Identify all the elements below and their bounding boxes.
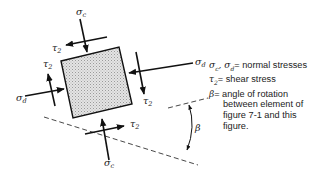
sigma-d-left-label: σd	[16, 92, 27, 105]
legend-shear-stress: τ2 = shear stress	[209, 74, 332, 88]
reference-dashed-line	[44, 117, 198, 165]
sigma-c-bottom-label: σc	[104, 157, 115, 169]
legend: σc, σd = normal stresses τ2 = shear stre…	[209, 60, 332, 131]
sigma-c-top-label: σc	[76, 6, 87, 19]
tau2-top-label: τ2	[52, 42, 61, 55]
tau2-left-label: τ2	[43, 58, 52, 71]
tau2-top-arrow	[66, 37, 107, 45]
beta-label: β	[194, 122, 201, 133]
rotated-dashed-line	[168, 98, 208, 108]
legend-angle-description-line-3: figure.	[209, 121, 332, 132]
sigma-c-bottom-arrow	[102, 119, 109, 160]
legend-normal-stresses: σc, σd = normal stresses	[209, 60, 332, 74]
sigma-d-right-label: σd	[195, 56, 206, 69]
legend-angle-rotation: β = angle of rotation	[209, 89, 332, 100]
tau2-bottom-label: τ2	[130, 118, 139, 131]
beta-angle-arc	[187, 105, 192, 150]
legend-angle-description-line-1: between element of	[209, 99, 332, 110]
tau2-right-label: τ2	[143, 95, 152, 108]
sigma-c-top-arrow	[80, 19, 87, 52]
legend-angle-description-line-2: figure 7-1 and this	[209, 110, 332, 121]
stress-element-square	[61, 47, 132, 118]
sigma-d-left-arrow	[25, 89, 64, 96]
tau2-right-arrow	[136, 52, 144, 94]
